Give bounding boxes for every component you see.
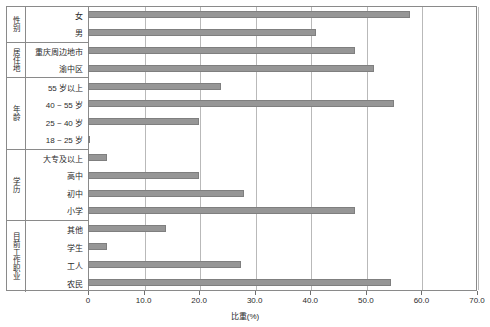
- category-group: 目前工作职业其他学生工人农民: [7, 221, 88, 292]
- gridline: [200, 7, 201, 290]
- category-group: 学历大专及以上高中初中小学: [7, 150, 88, 221]
- category-group: 居住地重庆周边地市渝中区: [7, 43, 88, 79]
- x-axis-tick-mark: [255, 291, 256, 295]
- category-row-list: 55 岁以上40 ~ 55 岁25 ~ 40 岁18 ~ 25 岁: [26, 78, 88, 148]
- category-group-name-text: 性别: [12, 16, 20, 32]
- category-row-list: 大专及以上高中初中小学: [26, 150, 88, 220]
- gridline: [422, 7, 423, 290]
- category-row-label: 40 ~ 55 岁: [26, 96, 88, 114]
- category-row-label: 学生: [26, 239, 88, 257]
- category-row-label: 渝中区: [26, 60, 88, 77]
- x-axis-tick-label: 30.0: [247, 296, 263, 305]
- category-row-label: 18 ~ 25 岁: [26, 131, 88, 149]
- gridline: [256, 7, 257, 290]
- category-group-name: 年龄: [7, 78, 26, 148]
- category-group-name: 目前工作职业: [7, 221, 26, 292]
- x-axis-tick-mark: [421, 291, 422, 295]
- gridline: [367, 7, 368, 290]
- category-row-list: 重庆周边地市渝中区: [26, 43, 88, 78]
- category-group-name-text: 学历: [12, 177, 20, 193]
- gridline: [145, 7, 146, 290]
- plot-area: [88, 6, 477, 291]
- x-axis-tick-mark: [144, 291, 145, 295]
- category-row-label: 初中: [26, 185, 88, 203]
- category-row-label: 小学: [26, 202, 88, 220]
- category-row-label: 农民: [26, 274, 88, 292]
- category-group-name-text: 年龄: [12, 105, 20, 121]
- category-row-label: 55 岁以上: [26, 78, 88, 96]
- category-group: 年龄55 岁以上40 ~ 55 岁25 ~ 40 岁18 ~ 25 岁: [7, 78, 88, 149]
- category-row-label: 大专及以上: [26, 150, 88, 168]
- category-row-list: 女男: [26, 7, 88, 42]
- x-axis-tick-mark: [366, 291, 367, 295]
- category-row-label: 工人: [26, 256, 88, 274]
- category-row-label: 高中: [26, 167, 88, 185]
- gridline: [311, 7, 312, 290]
- x-axis-tick-mark: [310, 291, 311, 295]
- category-group: 性别女男: [7, 7, 88, 43]
- category-row-label: 其他: [26, 221, 88, 239]
- horizontal-bar-chart: 性别女男居住地重庆周边地市渝中区年龄55 岁以上40 ~ 55 岁25 ~ 40…: [0, 0, 490, 327]
- category-group-name: 居住地: [7, 43, 26, 78]
- x-axis-tick-label: 0: [86, 296, 90, 305]
- category-group-name-text: 目前工作职业: [12, 232, 20, 280]
- x-axis-tick-mark: [199, 291, 200, 295]
- category-group-name: 学历: [7, 150, 26, 220]
- gridline: [478, 7, 479, 290]
- category-group-name: 性别: [7, 7, 26, 42]
- x-axis-tick-label: 60.0: [414, 296, 430, 305]
- category-label-table: 性别女男居住地重庆周边地市渝中区年龄55 岁以上40 ~ 55 岁25 ~ 40…: [6, 6, 88, 291]
- category-row-label: 男: [26, 24, 88, 41]
- category-row-label: 重庆周边地市: [26, 43, 88, 60]
- x-axis-tick-mark: [477, 291, 478, 295]
- category-group-name-text: 居住地: [12, 48, 20, 72]
- x-axis-title: 比重(%): [0, 310, 490, 321]
- category-row-list: 其他学生工人农民: [26, 221, 88, 292]
- x-axis-tick-label: 40.0: [302, 296, 318, 305]
- x-axis-tick-label: 50.0: [358, 296, 374, 305]
- category-row-label: 25 ~ 40 岁: [26, 113, 88, 131]
- x-axis-tick-label: 70.0: [469, 296, 485, 305]
- category-row-label: 女: [26, 7, 88, 24]
- x-axis-tick-label: 20.0: [191, 296, 207, 305]
- x-axis-tick-mark: [88, 291, 89, 295]
- x-axis-tick-label: 10.0: [136, 296, 152, 305]
